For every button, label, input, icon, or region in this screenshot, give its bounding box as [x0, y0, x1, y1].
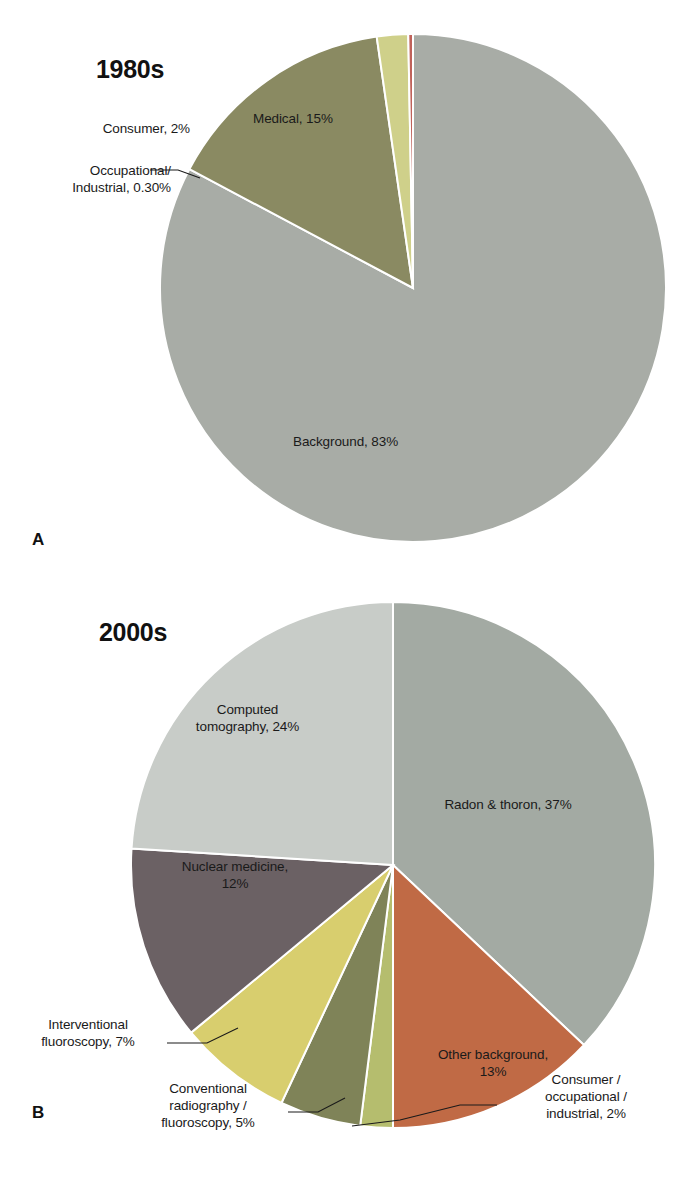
slice-label-computed-tomography: Computed tomography, 24% — [155, 701, 340, 735]
panel-b-letter: B — [32, 1103, 44, 1123]
slice-label-nuclear-medicine: Nuclear medicine, 12% — [135, 858, 335, 892]
slice-label-consumer: Consumer, 2% — [35, 120, 190, 137]
panel-b-2000s: 2000s Radon & thoron, 37% Other backgrou… — [0, 568, 681, 1184]
pie-a-svg — [157, 27, 669, 543]
pie-chart-1980s — [157, 27, 669, 543]
slice-label-occupational-industrial: Occupational/ Industrial, 0.30% — [16, 162, 171, 196]
slice-label-background: Background, 83% — [293, 433, 398, 450]
slice-label-conventional-radiography: Conventional radiography / fluoroscopy, … — [128, 1080, 288, 1131]
panel-a-title: 1980s — [96, 55, 164, 84]
slice-label-radon-thoron: Radon & thoron, 37% — [393, 796, 623, 813]
slice-label-consumer-occupational-industrial: Consumer / occupational / industrial, 2% — [500, 1071, 672, 1122]
panel-a-letter: A — [32, 530, 44, 550]
slice-label-medical: Medical, 15% — [253, 110, 333, 127]
panel-a-1980s: 1980s Medical, 15% Consumer, 2% Occupati… — [0, 0, 681, 568]
slice-label-interventional-fluoroscopy: Interventional fluoroscopy, 7% — [8, 1016, 168, 1050]
